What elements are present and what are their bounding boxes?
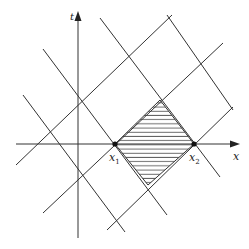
- point-x1-label: x1: [109, 151, 120, 166]
- x-axis-arrow-icon: [230, 141, 240, 148]
- point-x2-label: x2: [189, 151, 200, 166]
- t-axis: [75, 11, 82, 238]
- t-axis-arrow-icon: [75, 11, 82, 21]
- point-x1: [112, 141, 117, 146]
- x-axis-label: x: [233, 150, 240, 163]
- t-axis-label: t: [70, 11, 75, 22]
- characteristic-line-pos-2: [43, 43, 223, 213]
- negative-slope-lines: [23, 15, 233, 232]
- positive-slope-lines: [16, 15, 233, 230]
- characteristics-diagram: t x x1 x2: [0, 0, 249, 249]
- characteristic-line-neg-4: [167, 15, 233, 110]
- point-x2: [191, 141, 196, 146]
- shaded-region: [115, 100, 194, 185]
